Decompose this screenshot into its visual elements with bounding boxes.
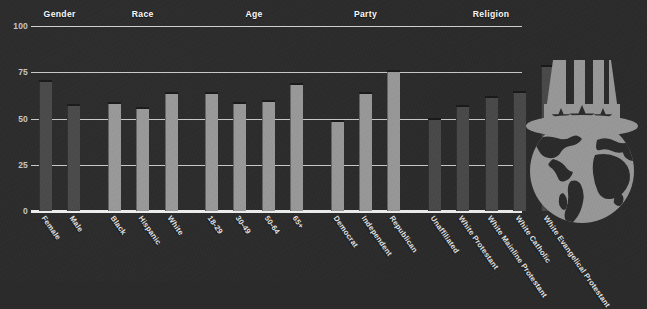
x-label-democrat: Democrat [331, 214, 359, 249]
bar-chart: 0255075100 GenderRaceAgePartyReligion Fe… [0, 0, 530, 281]
bar-50-64 [262, 100, 275, 211]
x-label-65-: 65+ [291, 214, 306, 230]
x-label-unaffiliated: Unaffiliated [428, 214, 460, 255]
bar-30-49 [233, 102, 246, 211]
y-tick-0: 0 [2, 206, 28, 216]
x-label-white: White [165, 214, 185, 237]
y-tick-50: 50 [2, 114, 28, 124]
bar-democrat [331, 120, 344, 211]
bar-65- [290, 83, 303, 211]
gridline-75 [31, 72, 522, 73]
group-header-religion: Religion [473, 9, 510, 19]
bar-white [165, 92, 178, 211]
x-label-black: Black [108, 214, 128, 237]
bar-black [108, 102, 121, 211]
bar-republican [387, 70, 400, 211]
x-label-female: Female [40, 214, 63, 242]
x-label-18-29: 18-29 [206, 214, 225, 236]
gridline-100 [31, 26, 522, 27]
x-label-hispanic: Hispanic [137, 214, 163, 246]
bar-white-mainline-protestant [485, 96, 498, 211]
x-label-republican: Republican [388, 214, 420, 254]
group-header-party: Party [354, 9, 377, 19]
bar-unaffiliated [428, 118, 441, 211]
bar-white-protestant [456, 105, 469, 211]
y-tick-75: 75 [2, 67, 28, 77]
gridline-50 [31, 119, 522, 120]
globe-icon [530, 119, 641, 223]
group-header-gender: Gender [44, 9, 76, 19]
group-header-age: Age [245, 9, 262, 19]
y-tick-100: 100 [2, 21, 28, 31]
x-label-50-64: 50-64 [262, 214, 281, 236]
bar-18-29 [205, 92, 218, 211]
bar-hispanic [136, 107, 149, 211]
y-tick-25: 25 [2, 160, 28, 170]
bar-independent [359, 92, 372, 211]
gridline-0 [31, 210, 522, 213]
group-header-race: Race [132, 9, 154, 19]
x-label-30-49: 30-49 [234, 214, 253, 236]
x-label-male: Male [68, 214, 86, 234]
bar-male [67, 104, 80, 211]
uncle-sam-hat-globe-logo [523, 48, 641, 233]
gridline-25 [31, 165, 522, 166]
bar-female [39, 80, 52, 212]
